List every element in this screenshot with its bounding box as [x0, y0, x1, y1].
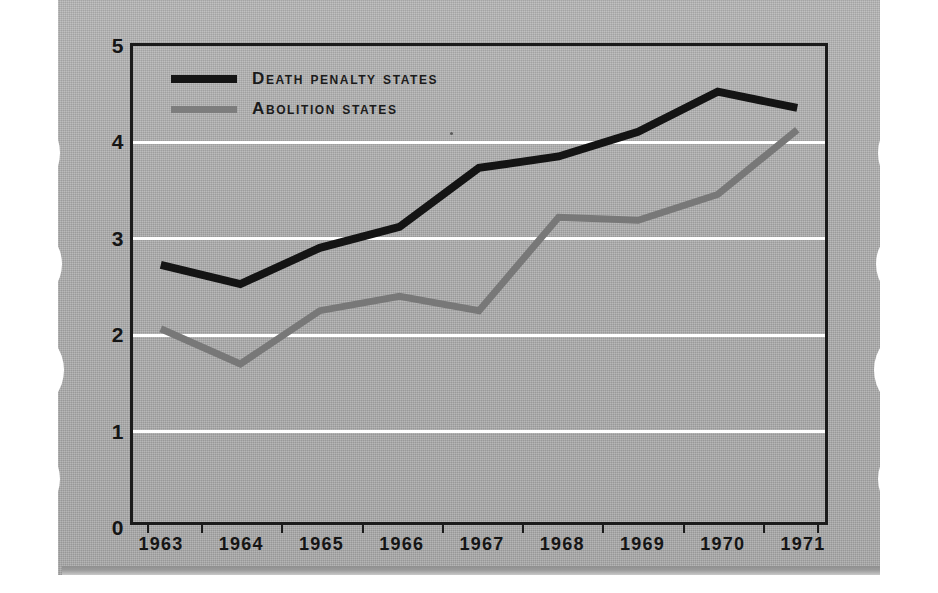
paper-speck [450, 132, 453, 135]
x-axis-tick-label-1966: 1966 [379, 534, 424, 555]
x-axis-tick-0 [201, 522, 203, 533]
x-axis-tick-2 [362, 522, 364, 533]
x-axis-tick-5 [602, 522, 604, 533]
chart-plot-area: 012345 196319641965196619671968196919701… [130, 43, 828, 525]
y-axis-tick-label-4: 4 [112, 130, 124, 154]
y-axis-tick-label-0: 0 [112, 516, 124, 540]
x-axis-tick-4 [522, 522, 524, 533]
x-axis-tick-label-1968: 1968 [540, 534, 585, 555]
torn-edge-right [866, 0, 938, 576]
scanned-page: 012345 196319641965196619671968196919701… [0, 0, 938, 593]
torn-edge-strip [0, 0, 16, 576]
x-axis-tick-label-1967: 1967 [460, 534, 505, 555]
x-axis-tick-1 [281, 522, 283, 533]
x-axis-tick-edge-1 [817, 522, 819, 533]
y-axis-tick-label-1: 1 [112, 420, 124, 444]
x-axis-tick-edge-0 [147, 522, 149, 533]
page-bottom-shadow [62, 566, 880, 575]
torn-edge-left [0, 0, 72, 576]
x-axis-tick-6 [683, 522, 685, 533]
y-axis-tick-label-3: 3 [112, 227, 124, 251]
page-bottom-margin [0, 575, 938, 593]
x-axis-tick-label-1970: 1970 [700, 534, 745, 555]
x-axis-tick-label-1971: 1971 [781, 534, 826, 555]
legend-swatch-death-penalty-states [171, 75, 237, 83]
x-axis-tick-label-1964: 1964 [219, 534, 264, 555]
x-axis-tick-7 [763, 522, 765, 533]
x-axis-tick-label-1969: 1969 [620, 534, 665, 555]
legend-swatch-abolition-states [171, 106, 237, 113]
legend-entry-abolition-states: Abolition states [171, 94, 438, 124]
y-axis-tick-label-5: 5 [112, 34, 124, 58]
legend-label-death-penalty-states: Death penalty states [252, 69, 438, 89]
x-axis-tick-3 [442, 522, 444, 533]
x-axis-tick-label-1963: 1963 [139, 534, 184, 555]
y-axis-tick-label-2: 2 [112, 323, 124, 347]
legend-entry-death-penalty-states: Death penalty states [171, 64, 438, 94]
legend-label-abolition-states: Abolition states [252, 99, 398, 119]
torn-edge-strip [922, 0, 938, 576]
x-axis-tick-label-1965: 1965 [299, 534, 344, 555]
chart-legend: Death penalty states Abolition states [171, 64, 438, 124]
